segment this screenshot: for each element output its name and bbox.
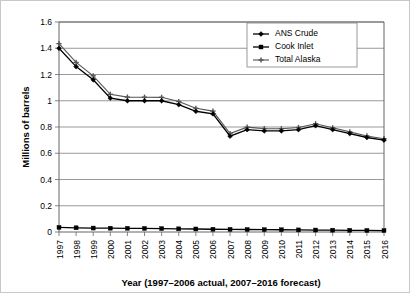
y-axis-title: Millions of barrels <box>20 86 31 167</box>
chart-legend: ANS CrudeCook InletTotal Alaska <box>247 23 357 67</box>
x-tick-label: 2010 <box>277 240 287 259</box>
x-tick-label: 2004 <box>174 240 184 259</box>
data-point-marker <box>160 227 164 231</box>
data-point-marker <box>57 225 61 229</box>
legend-label: Cook Inlet <box>275 41 314 51</box>
x-tick-label: 2015 <box>362 240 372 259</box>
data-point-marker <box>259 45 263 49</box>
x-tick-labels: 1997199819992000200120022003200420052006… <box>55 240 390 259</box>
x-tick-label: 2001 <box>123 240 133 259</box>
y-axis-title-text: Millions of barrels <box>20 86 31 167</box>
y-tick-label: 1.2 <box>40 70 52 80</box>
x-tick-label: 2003 <box>157 240 167 259</box>
legend-label: Total Alaska <box>275 54 321 64</box>
x-tick-label: 2006 <box>208 240 218 259</box>
data-point-marker <box>211 227 215 231</box>
y-tick-label: 0.4 <box>40 175 52 185</box>
y-tick-label: 1 <box>47 96 52 106</box>
x-axis-title: Year (1997–2006 actual, 2007–2016 foreca… <box>121 277 320 288</box>
data-point-marker <box>177 227 181 231</box>
legend-label: ANS Crude <box>275 28 318 38</box>
data-point-marker <box>193 109 198 114</box>
x-tick-label: 1997 <box>55 240 65 259</box>
data-point-marker <box>331 228 335 232</box>
y-tick-label: 0.6 <box>40 148 52 158</box>
x-tickmarks <box>59 232 384 236</box>
data-point-marker <box>262 228 266 232</box>
data-point-marker <box>74 226 78 230</box>
data-point-marker <box>382 229 386 233</box>
data-point-marker <box>245 228 249 232</box>
data-point-marker <box>348 228 352 232</box>
x-tick-label: 2007 <box>226 240 236 259</box>
data-point-marker <box>194 227 198 231</box>
data-point-marker <box>108 226 112 230</box>
y-tick-label: 0.8 <box>40 122 52 132</box>
x-tick-label: 2011 <box>294 240 304 259</box>
data-point-marker <box>142 98 147 103</box>
data-point-marker <box>279 228 283 232</box>
data-point-marker <box>228 227 232 231</box>
y-tick-label: 0 <box>47 227 52 237</box>
x-tick-label: 1998 <box>72 240 82 259</box>
y-tick-label: 0.2 <box>40 201 52 211</box>
y-tick-label: 1.6 <box>40 17 52 27</box>
chart-figure: Millions of barrels 00.20.40.60.811.21.4… <box>0 0 410 293</box>
data-series-layer <box>56 41 386 233</box>
data-point-marker <box>91 226 95 230</box>
data-point-marker <box>159 98 164 103</box>
data-point-marker <box>365 228 369 232</box>
x-tick-label: 2002 <box>140 240 150 259</box>
line-chart: Millions of barrels 00.20.40.60.811.21.4… <box>1 1 410 293</box>
x-tick-label: 2013 <box>328 240 338 259</box>
y-tick-label: 1.4 <box>40 43 52 53</box>
data-point-marker <box>176 102 181 107</box>
data-point-marker <box>314 228 318 232</box>
x-tick-label: 2000 <box>106 240 116 259</box>
x-tick-label: 2008 <box>243 240 253 259</box>
data-point-marker <box>143 226 147 230</box>
series-cook-inlet <box>57 225 386 232</box>
x-tick-label: 2005 <box>191 240 201 259</box>
data-point-marker <box>296 228 300 232</box>
x-tick-label: 2009 <box>260 240 270 259</box>
data-point-marker <box>125 98 130 103</box>
x-tick-label: 2016 <box>380 240 390 259</box>
data-point-marker <box>125 226 129 230</box>
x-tick-label: 2014 <box>345 240 355 259</box>
series-path <box>59 227 384 230</box>
x-tick-label: 1999 <box>89 240 99 259</box>
x-tick-label: 2012 <box>311 240 321 259</box>
